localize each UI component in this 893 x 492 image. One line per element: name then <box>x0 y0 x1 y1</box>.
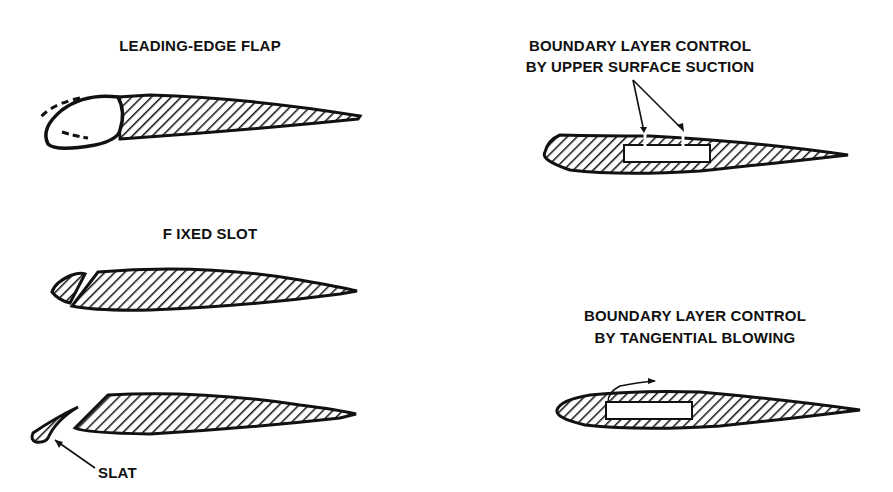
leading-edge-flap-airfoil <box>40 95 360 148</box>
slat-airfoil <box>32 394 356 468</box>
leading-edge-flap-label: LEADING-EDGE FLAP <box>100 35 300 57</box>
fixed-slot-airfoil <box>52 269 357 310</box>
fixed-slot-label: F IXED SLOT <box>135 223 285 245</box>
blc-suction-airfoil <box>544 80 848 173</box>
blc-blowing-label-line1: BOUNDARY LAYER CONTROL <box>535 305 855 327</box>
blc-suction-label-line1: BOUNDARY LAYER CONTROL <box>480 35 800 57</box>
blc-blowing-airfoil <box>557 378 860 428</box>
slat-label: SLAT <box>98 462 158 484</box>
blc-suction-label-line2: BY UPPER SURFACE SUCTION <box>480 56 800 78</box>
blc-blowing-label-line2: BY TANGENTIAL BLOWING <box>535 327 855 349</box>
